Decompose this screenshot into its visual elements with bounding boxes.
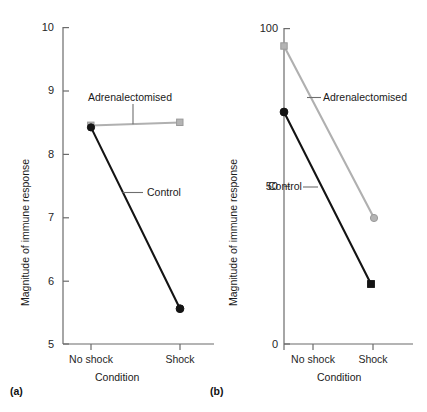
panel-a-plot bbox=[0, 0, 214, 412]
annotation-adrenalectomised-a: Adrenalectomised bbox=[88, 92, 172, 103]
data-point-control-noshock-b bbox=[280, 108, 288, 116]
panel-b: 100 50 0 No shock Shock Condition Magnit… bbox=[213, 0, 427, 412]
series-line-control-a bbox=[91, 127, 180, 308]
series-line-adrenalectomised-a bbox=[91, 123, 180, 126]
panel-b-plot bbox=[213, 0, 427, 412]
data-point-adrenalectomised-noshock-b bbox=[281, 43, 287, 49]
panel-a: 10 9 8 7 6 5 No shock Shock Condition Ma… bbox=[0, 0, 214, 412]
data-point-control-noshock-a bbox=[87, 124, 94, 131]
y-axis-title-b: Magnitude of immune response bbox=[227, 159, 239, 306]
x-tick-label-noshock-a: No shock bbox=[56, 354, 126, 365]
data-point-adrenalectomised-shock-b bbox=[370, 214, 377, 221]
data-point-adrenalectomised-shock-a bbox=[177, 119, 183, 125]
annotation-control-b: Control bbox=[268, 181, 302, 192]
x-axis-title-a: Condition bbox=[95, 372, 139, 383]
y-tick-label-10-a: 10 bbox=[26, 22, 54, 33]
y-tick-label-5-a: 5 bbox=[26, 339, 54, 350]
panel-tag-b: (b) bbox=[210, 386, 223, 397]
figure-container: 10 9 8 7 6 5 No shock Shock Condition Ma… bbox=[0, 0, 427, 412]
annotation-control-a: Control bbox=[147, 187, 181, 198]
y-axis-title-a: Magnitude of immune response bbox=[19, 159, 31, 306]
x-tick-label-shock-a: Shock bbox=[148, 354, 212, 365]
y-tick-label-9-a: 9 bbox=[26, 85, 54, 96]
y-tick-label-100-b: 100 bbox=[234, 23, 278, 34]
x-tick-label-noshock-b: No shock bbox=[278, 354, 348, 365]
series-line-adrenalectomised-b bbox=[284, 46, 374, 218]
data-point-control-shock-b bbox=[368, 281, 375, 288]
x-axis-title-b: Condition bbox=[317, 372, 361, 383]
series-line-control-b bbox=[284, 112, 371, 284]
x-tick-label-shock-b: Shock bbox=[341, 354, 405, 365]
data-point-control-shock-a bbox=[176, 305, 184, 313]
annotation-adrenalectomised-b: Adrenalectomised bbox=[323, 92, 407, 103]
panel-tag-a: (a) bbox=[10, 386, 23, 397]
y-tick-label-0-b: 0 bbox=[234, 339, 278, 350]
